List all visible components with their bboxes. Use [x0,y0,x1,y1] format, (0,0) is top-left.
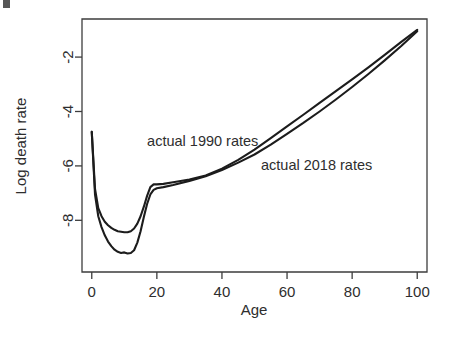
annotation-label-1: actual 1990 rates [147,133,258,149]
y-tick-label: -6 [59,159,76,172]
y-axis-tick-labels: -2-4-6-8 [59,50,76,227]
x-axis-title: Age [241,301,268,318]
x-tick-label: 20 [149,283,166,300]
figure-container: 020406080100 -2-4-6-8 Age Log death rate… [0,0,457,338]
series-line-actual-1990-rates [92,30,417,232]
x-tick-label: 40 [214,283,231,300]
annotation-label-2: actual 2018 rates [261,157,372,173]
scan-artifact [3,0,10,8]
y-axis-ticks [75,57,82,220]
x-axis-tick-labels: 020406080100 [88,283,430,300]
y-tick-label: -2 [59,50,76,63]
x-tick-label: 0 [88,283,96,300]
line-chart: 020406080100 -2-4-6-8 Age Log death rate… [0,0,457,338]
x-axis-ticks [92,272,417,279]
x-tick-label: 80 [344,283,361,300]
y-axis-title: Log death rate [12,98,29,195]
annotation-group: actual 1990 ratesactual 2018 rates [147,133,372,173]
y-tick-label: -8 [59,214,76,227]
x-tick-label: 100 [405,283,430,300]
y-tick-label: -4 [59,105,76,118]
x-tick-label: 60 [279,283,296,300]
